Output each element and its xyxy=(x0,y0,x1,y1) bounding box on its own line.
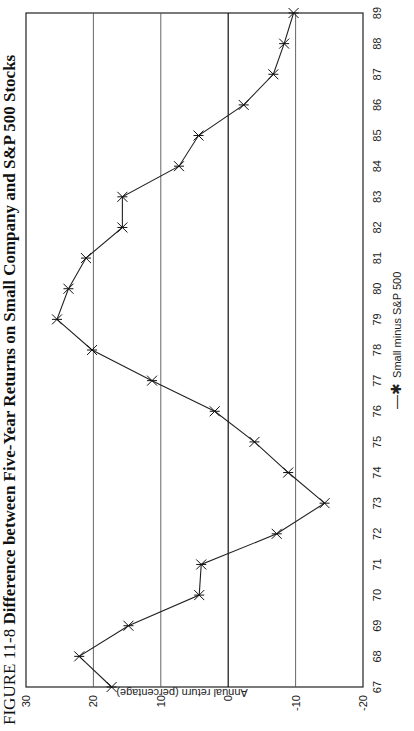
data-point-marker xyxy=(283,468,293,478)
x-tick-label: 69 xyxy=(371,620,383,632)
x-tick-label: 81 xyxy=(371,252,383,264)
y-tick-label: -20 xyxy=(357,695,369,711)
data-point-marker xyxy=(279,39,289,49)
data-point-marker xyxy=(268,69,278,79)
data-point-marker xyxy=(239,100,249,110)
legend-label: Small minus S&P 500 xyxy=(391,272,403,378)
x-tick-label: 88 xyxy=(371,38,383,50)
data-point-marker xyxy=(210,406,220,416)
x-tick-label: 75 xyxy=(371,436,383,448)
y-tick-label: -10 xyxy=(290,695,302,711)
data-point-marker xyxy=(81,253,91,263)
y-tick-label: 0 xyxy=(222,695,234,701)
x-tick-label: 85 xyxy=(371,129,383,141)
series-line xyxy=(57,13,325,687)
data-point-marker xyxy=(272,529,282,539)
x-tick-label: 71 xyxy=(371,558,383,570)
x-tick-label: 87 xyxy=(371,68,383,80)
y-tick-label: 30 xyxy=(20,695,32,707)
data-point-marker xyxy=(52,314,62,324)
x-tick-label: 67 xyxy=(371,681,383,693)
x-tick-label: 84 xyxy=(371,160,383,172)
x-tick-label: 83 xyxy=(371,191,383,203)
chart-legend: —✱ Small minus S&P 500 xyxy=(388,272,404,409)
data-point-marker xyxy=(289,8,299,18)
x-tick-label: 78 xyxy=(371,344,383,356)
line-chart: 3020100-10-20676869707172737475767778798… xyxy=(0,0,414,731)
y-tick-label: 10 xyxy=(155,695,167,707)
y-tick-label: 20 xyxy=(87,695,99,707)
x-tick-label: 82 xyxy=(371,221,383,233)
data-point-marker xyxy=(63,284,73,294)
x-tick-label: 76 xyxy=(371,405,383,417)
x-tick-label: 72 xyxy=(371,528,383,540)
data-point-marker xyxy=(320,498,330,508)
x-tick-label: 79 xyxy=(371,313,383,325)
data-point-marker xyxy=(249,437,259,447)
x-tick-label: 70 xyxy=(371,589,383,601)
data-point-marker xyxy=(194,131,204,141)
asterisk-marker-icon: —✱ xyxy=(388,383,404,409)
x-tick-label: 80 xyxy=(371,283,383,295)
x-tick-label: 68 xyxy=(371,650,383,662)
x-tick-label: 89 xyxy=(371,7,383,19)
data-point-marker xyxy=(87,345,97,355)
data-point-marker xyxy=(74,651,84,661)
data-point-marker xyxy=(147,376,157,386)
data-point-marker xyxy=(174,161,184,171)
x-tick-label: 73 xyxy=(371,497,383,509)
x-tick-label: 74 xyxy=(371,466,383,478)
x-tick-label: 86 xyxy=(371,99,383,111)
plot-frame xyxy=(26,13,363,687)
rotated-chart-stage: FIGURE 11-8 Difference between Five-Year… xyxy=(0,0,414,731)
data-point-marker xyxy=(107,682,117,692)
x-tick-label: 77 xyxy=(371,375,383,387)
data-point-marker xyxy=(123,621,133,631)
